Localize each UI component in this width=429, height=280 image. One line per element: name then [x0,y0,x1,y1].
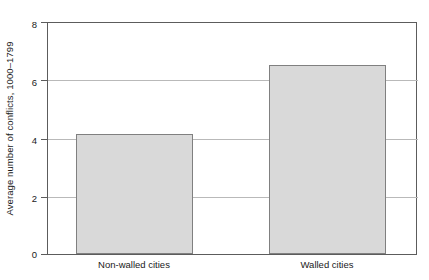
bar-non-walled-cities [76,134,193,254]
plot-area [47,22,417,255]
y-tick-label-6: 6 [15,78,37,88]
y-tick-label-0: 0 [15,250,37,260]
bar-walled-cities [269,65,386,254]
y-axis-title: Average number of conflicts, 1000–1799 [2,1,18,256]
x-category-label-walled-cities: Walled cities [267,259,387,271]
y-tick-label-8: 8 [15,20,37,30]
y-tick-label-2: 2 [15,194,37,204]
y-tick-label-4: 4 [15,136,37,146]
x-category-label-non-walled-cities: Non-walled cities [74,259,194,271]
bar-chart: Average number of conflicts, 1000–1799 8… [0,0,429,280]
